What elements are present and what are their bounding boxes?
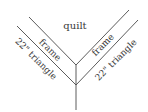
label-right-frame: frame (90, 32, 116, 58)
quilt-corner-diagram: quilt frame 22" triangle frame 22" trian… (0, 0, 148, 112)
label-quilt: quilt (63, 20, 86, 31)
